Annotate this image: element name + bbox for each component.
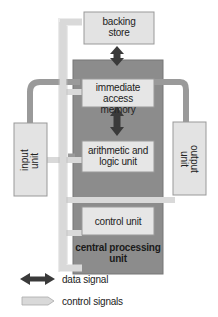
backing-store-label: backing store xyxy=(84,16,154,38)
output-line1: output xyxy=(189,145,200,173)
alu-line2: logic unit xyxy=(82,156,154,167)
data-signal-legend-icon xyxy=(20,273,55,285)
alu-line1: arithmetic and xyxy=(82,145,154,156)
legend-control-signals-label: control signals xyxy=(62,296,123,307)
backing-store-line1: backing xyxy=(84,16,154,27)
output-line2: unit xyxy=(179,151,190,167)
control-signal-legend-icon xyxy=(22,297,54,305)
memory-label: immediate access memory xyxy=(82,82,154,115)
backing-store-line2: store xyxy=(84,27,154,38)
cpu-line2: unit xyxy=(73,253,163,264)
cpu-line1: central processing xyxy=(73,242,163,253)
alu-label: arithmetic and logic unit xyxy=(82,145,154,167)
output-unit-label: output unit xyxy=(179,134,199,184)
memory-line2: memory xyxy=(82,104,154,115)
control-unit-label: control unit xyxy=(82,216,154,227)
legend-data-signal-label: data signal xyxy=(62,274,108,285)
input-line2: unit xyxy=(29,152,40,168)
memory-line1: immediate access xyxy=(82,82,154,104)
cpu-label: central processing unit xyxy=(73,242,163,264)
input-unit-label: input unit xyxy=(20,138,40,183)
